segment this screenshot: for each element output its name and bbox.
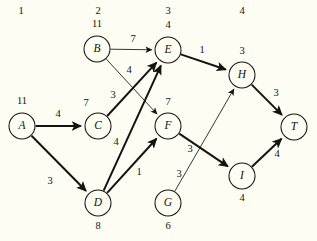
node-F[interactable]: F xyxy=(155,113,181,139)
node-D[interactable]: D xyxy=(85,190,111,216)
node-H[interactable]: H xyxy=(229,62,255,88)
network-graph: 1234 437434113334 ABCDEFGHIT 11117847634 xyxy=(0,0,317,241)
node-label-D: D xyxy=(93,196,103,208)
edge-weight-D-E: 4 xyxy=(113,136,119,147)
edge-G-to-H xyxy=(175,89,234,191)
edge-weight-D-F: 1 xyxy=(136,166,141,177)
node-label-A: A xyxy=(17,119,26,131)
node-value-C: 7 xyxy=(83,97,88,108)
node-label-H: H xyxy=(237,68,247,80)
node-I[interactable]: I xyxy=(229,163,255,189)
edge-weight-B-F: 4 xyxy=(126,64,132,75)
column-header-4: 4 xyxy=(239,5,245,16)
column-header-2: 2 xyxy=(95,5,100,16)
edge-weight-C-E: 3 xyxy=(110,89,115,100)
node-value-G: 6 xyxy=(165,220,170,231)
node-value-A: 11 xyxy=(17,95,27,106)
node-G[interactable]: G xyxy=(155,190,181,216)
node-label-B: B xyxy=(93,42,100,54)
node-value-F: 7 xyxy=(165,96,170,107)
node-value-D: 8 xyxy=(95,220,100,231)
edge-weight-A-D: 3 xyxy=(47,175,52,186)
node-value-H: 3 xyxy=(239,45,244,56)
diagram-canvas: 1234 437434113334 ABCDEFGHIT 11117847634 xyxy=(0,0,317,241)
column-headers: 1234 xyxy=(18,5,245,16)
node-B[interactable]: B xyxy=(84,36,110,62)
node-E[interactable]: E xyxy=(155,37,181,63)
node-label-G: G xyxy=(164,196,173,208)
edge-B-to-E xyxy=(111,49,152,50)
edge-weight-A-C: 4 xyxy=(55,108,61,119)
node-label-C: C xyxy=(94,119,102,131)
node-value-I: 4 xyxy=(239,192,245,203)
edge-D-to-E xyxy=(104,66,161,191)
node-C[interactable]: C xyxy=(85,113,111,139)
node-label-F: F xyxy=(163,119,172,131)
edge-E-to-H xyxy=(181,54,226,69)
node-T[interactable]: T xyxy=(281,114,307,140)
node-value-E: 4 xyxy=(165,19,171,30)
edge-weight-H-T: 3 xyxy=(273,87,278,98)
edge-A-to-D xyxy=(32,136,86,191)
node-values-layer: 11117847634 xyxy=(17,18,245,231)
edge-weight-I-T: 4 xyxy=(274,148,280,159)
node-value-B: 11 xyxy=(92,18,102,29)
column-header-1: 1 xyxy=(18,5,23,16)
edge-weight-G-H: 3 xyxy=(176,168,181,179)
edge-weight-B-E: 7 xyxy=(130,33,135,44)
edge-weight-F-I: 3 xyxy=(187,143,192,154)
node-label-E: E xyxy=(163,43,171,55)
node-A[interactable]: A xyxy=(9,113,35,139)
column-header-3: 3 xyxy=(165,5,170,16)
edge-weight-E-H: 1 xyxy=(199,44,204,55)
